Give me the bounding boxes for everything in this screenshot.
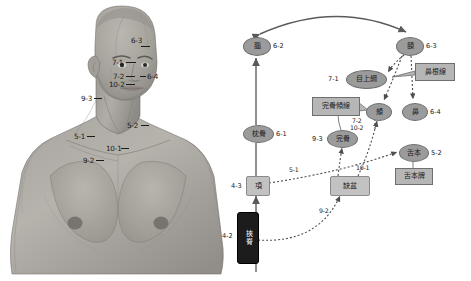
leader-tick [126, 76, 135, 77]
callout-shebenpai-label: 舌本牌 [404, 173, 425, 180]
callout-wangu-qingxian-label: 完骨傾線 [322, 103, 350, 110]
edge-label-5-1: 5-1 [289, 166, 299, 173]
leader-tick [121, 148, 129, 149]
flow-diagram-panel: 腦 6-2 頟 6-3 目上綱 7-1 鼻根線 頰 鼻 6-4 完骨傾線 完骨 … [232, 0, 471, 281]
node-wangu[interactable]: 完骨 [327, 130, 358, 148]
edge-label-10-1: 10-1 [356, 164, 369, 171]
node-e[interactable]: 頟 [396, 37, 424, 56]
human-body-illustration [0, 0, 232, 281]
node-jiaji[interactable]: 挾脊 [237, 212, 259, 264]
node-code-6-4: 6-4 [430, 108, 441, 116]
figure-label-7-1: 7-1 [112, 58, 123, 67]
edge-label-9-2: 9-2 [319, 207, 329, 214]
screenshot-root: 6-3 7-1 7-2 10-2 6-4 9-3 5-2 5-1 10-1 9-… [0, 0, 471, 281]
node-mushangang[interactable]: 目上綱 [346, 70, 387, 89]
figure-label-5-2: 5-2 [127, 121, 138, 130]
edge-label-10-2: 10-2 [350, 124, 363, 131]
figure-label-6-4: 6-4 [147, 72, 158, 81]
callout-bigenxian-label: 鼻根線 [425, 69, 446, 76]
node-bi[interactable]: 鼻 [402, 103, 428, 121]
leader-tick [96, 160, 104, 161]
node-code-6-2: 6-2 [273, 42, 284, 50]
node-jia[interactable]: 頰 [366, 103, 392, 121]
node-code-4-2: 4-2 [222, 232, 233, 240]
leader-tick [140, 76, 146, 77]
node-code-9-3: 9-3 [312, 135, 323, 143]
figure-label-9-3: 9-3 [81, 94, 92, 103]
node-code-5-2: 5-2 [431, 149, 442, 157]
node-xiang-label: 項 [255, 183, 262, 190]
node-bi-label: 鼻 [412, 109, 419, 116]
leader-tick [126, 62, 136, 63]
leader-tick [141, 125, 149, 126]
node-sheben-label: 舌本 [407, 150, 421, 157]
node-nao[interactable]: 腦 [243, 37, 271, 56]
figure-label-9-2: 9-2 [83, 156, 94, 165]
node-xiang[interactable]: 項 [246, 176, 270, 196]
figure-label-6-3: 6-3 [131, 36, 142, 45]
leader-tick [126, 84, 135, 85]
callout-bigenxian[interactable]: 鼻根線 [415, 63, 455, 81]
node-code-6-1: 6-1 [276, 130, 287, 138]
node-e-label: 頟 [407, 43, 414, 50]
node-code-6-3: 6-3 [426, 42, 437, 50]
figure-label-10-2: 10-2 [109, 80, 125, 89]
node-code-7-1: 7-1 [328, 75, 339, 83]
callout-wangu-qingxian[interactable]: 完骨傾線 [312, 97, 360, 116]
node-sheben[interactable]: 舌本 [399, 144, 429, 162]
figure-label-10-1: 10-1 [106, 144, 122, 153]
node-code-4-3: 4-3 [231, 182, 242, 190]
edge-label-7-2: 7-2 [352, 117, 362, 124]
callout-shebenpai[interactable]: 舌本牌 [395, 168, 433, 185]
node-jia-label: 頰 [376, 109, 383, 116]
anatomical-figure-panel: 6-3 7-1 7-2 10-2 6-4 9-3 5-2 5-1 10-1 9-… [0, 0, 232, 281]
node-mushangang-label: 目上綱 [356, 76, 377, 83]
node-wangu-label: 完骨 [336, 136, 350, 143]
node-nao-label: 腦 [254, 43, 261, 50]
figure-label-5-1: 5-1 [74, 132, 85, 141]
leader-tick [94, 98, 102, 99]
leader-tick [87, 136, 95, 137]
node-zhengu-label: 枕骨 [252, 131, 266, 138]
node-jiaji-label: 挾脊 [245, 230, 252, 246]
node-quepen[interactable]: 缺盆 [330, 176, 370, 196]
node-quepen-label: 缺盆 [343, 183, 357, 190]
node-zhengu[interactable]: 枕骨 [243, 125, 274, 143]
leader-tick [141, 46, 150, 47]
